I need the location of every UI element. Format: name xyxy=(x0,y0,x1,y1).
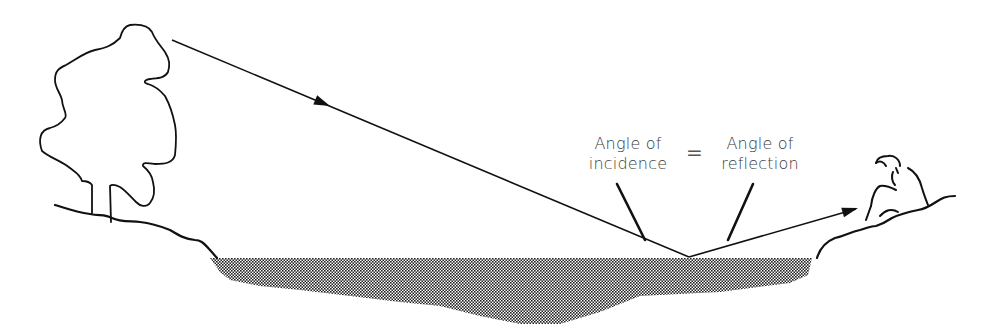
angle-of-incidence-label: Angle of incidence xyxy=(568,134,688,174)
reflection-pointer xyxy=(728,184,753,240)
reflection-diagram: Angle of incidence = Angle of reflection xyxy=(0,0,984,332)
tree-icon xyxy=(40,25,176,222)
arrowhead-icon xyxy=(841,203,859,217)
angle-of-reflection-label: Angle of reflection xyxy=(700,134,820,174)
incidence-label-line2: incidence xyxy=(568,154,688,174)
incidence-pointer xyxy=(617,184,645,240)
right-ground xyxy=(817,196,955,258)
reflection-label-line2: reflection xyxy=(700,154,820,174)
water-pond xyxy=(210,258,812,324)
arrowhead-icon xyxy=(313,95,332,110)
reflection-label-line1: Angle of xyxy=(700,134,820,154)
reflected-ray xyxy=(689,203,859,257)
incidence-label-line1: Angle of xyxy=(568,134,688,154)
left-ground xyxy=(55,205,217,258)
